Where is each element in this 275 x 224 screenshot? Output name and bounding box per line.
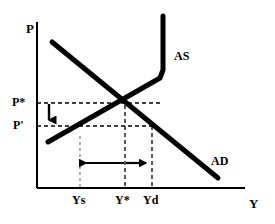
- curve-label-as: AS: [174, 50, 189, 62]
- as-curve: [48, 16, 163, 142]
- tick-label-ys: Ys: [72, 194, 85, 206]
- tick-label-yd: Yd: [143, 194, 158, 206]
- curve-label-ad: AD: [211, 155, 228, 167]
- as-ad-diagram: P Y P* P' Ys Y* Yd AS AD: [0, 0, 275, 224]
- y-axis-title: P: [26, 22, 34, 35]
- tick-label-y-star: Y*: [115, 194, 130, 206]
- price-label-p-star: P*: [12, 96, 25, 108]
- ad-curve: [52, 42, 218, 178]
- price-label-p-prime: P': [13, 119, 24, 131]
- diagram-canvas: [0, 0, 275, 224]
- x-axis-title: Y: [249, 197, 258, 210]
